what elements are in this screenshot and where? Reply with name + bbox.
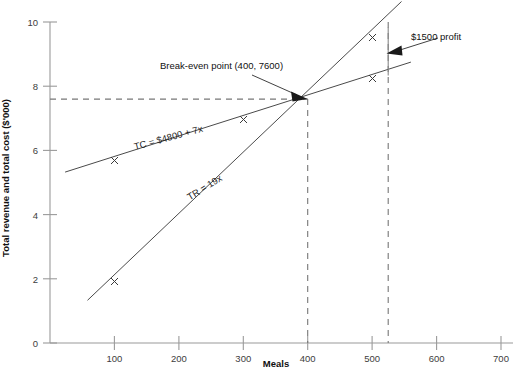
total-cost-markers — [111, 75, 376, 164]
y-tick-label-2: 2 — [20, 273, 38, 284]
chart-plot-area — [0, 0, 529, 379]
y-tick-label-10: 10 — [20, 17, 38, 28]
x-tick-label-700: 700 — [493, 353, 509, 364]
y-tick-label-4: 4 — [20, 209, 38, 220]
profit-annotation: $1500 profit — [411, 31, 461, 42]
y-axis-title: Total revenue and total cost ($'000) — [0, 99, 11, 257]
x-tick-label-100: 100 — [106, 353, 122, 364]
breakeven-point-annotation: Break-even point (400, 7600) — [160, 60, 283, 71]
x-tick-label-500: 500 — [364, 353, 380, 364]
x-tick-label-600: 600 — [429, 353, 445, 364]
x-tick-label-200: 200 — [171, 353, 187, 364]
x-tick-label-300: 300 — [235, 353, 251, 364]
y-tick-label-0: 0 — [20, 338, 38, 349]
x-axis-title: Meals — [263, 358, 289, 369]
y-tick-label-8: 8 — [20, 81, 38, 92]
break-even-chart: 0 2 4 6 8 10 100 200 300 400 500 600 700… — [0, 0, 529, 379]
breakeven-leader-line — [252, 75, 297, 95]
total-revenue-markers — [111, 34, 376, 285]
y-tick-label-6: 6 — [20, 145, 38, 156]
profit-arrow-head — [387, 46, 403, 56]
total-cost-line — [65, 62, 411, 172]
x-tick-label-400: 400 — [300, 353, 316, 364]
